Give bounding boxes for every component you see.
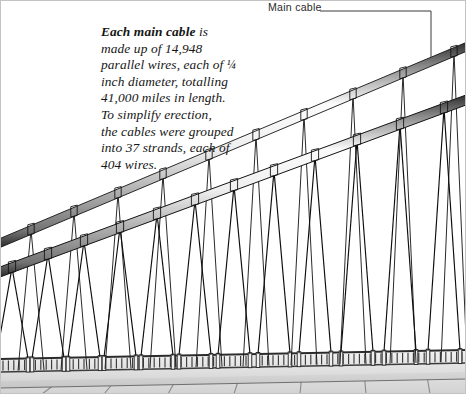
caption-line-7: the cables were grouped <box>101 124 234 139</box>
illustration-page: Each main cable is made up of 14,948 par… <box>0 0 466 394</box>
caption-line-2: made up of 14,948 <box>101 41 202 56</box>
caption-line-9: 404 wires. <box>101 157 157 172</box>
caption-line-5: 41,000 miles in length. <box>101 90 226 105</box>
main-cable-label: Main cable <box>268 1 322 13</box>
caption-lead-in: Each main cable <box>101 24 196 39</box>
caption-line-6: To simplify erection, <box>101 107 212 122</box>
caption-line-4: inch diameter, totalling <box>101 74 228 89</box>
caption-fraction: ¼ <box>227 58 236 72</box>
caption-text: Each main cable is made up of 14,948 par… <box>101 24 251 173</box>
caption-line-1: is <box>196 24 209 39</box>
caption-line-3: parallel wires, each of <box>101 57 227 72</box>
caption-line-8: into 37 strands, each of <box>101 140 230 155</box>
